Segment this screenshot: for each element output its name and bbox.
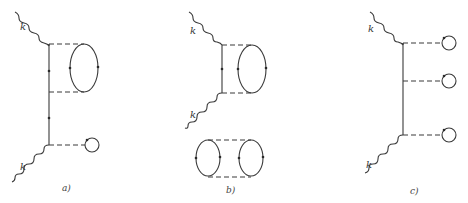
arrow-marker [262, 156, 265, 159]
fermion-loop [239, 140, 263, 176]
arrow-marker [238, 157, 241, 160]
fermion-loop [70, 44, 98, 92]
momentum-label-top: k [190, 25, 196, 36]
arrow-marker [443, 129, 446, 132]
arrow-marker [69, 67, 72, 70]
arrow-marker [265, 67, 268, 70]
arrow-marker [443, 37, 446, 40]
arrow-marker [48, 117, 51, 120]
momentum-label-bottom: k [190, 109, 196, 120]
fermion-loop [238, 45, 266, 93]
panel-c: k k c) [365, 12, 456, 196]
arrow-marker [221, 68, 224, 71]
panel-caption: a) [62, 183, 71, 193]
panel-caption: b) [226, 185, 236, 195]
arrow-marker [86, 139, 89, 142]
momentum-label-top: k [368, 23, 374, 34]
momentum-label-bottom: k [366, 159, 372, 170]
arrow-marker [443, 75, 446, 78]
arrow-marker [237, 68, 240, 71]
momentum-label-bottom: k [20, 161, 26, 172]
photon-line-top [370, 12, 403, 45]
arrow-marker [195, 157, 198, 160]
panel-b: k k b) [185, 12, 267, 195]
panel-a: k k a) [12, 12, 99, 193]
arrow-marker [219, 156, 222, 159]
arrow-marker [97, 66, 100, 69]
photon-line-bottom [12, 145, 49, 182]
panel-caption: c) [410, 186, 419, 196]
feynman-diagrams: k k a) k k b) [0, 0, 468, 203]
fermion-loop [196, 140, 220, 176]
momentum-label-top: k [20, 21, 26, 32]
arrow-marker [48, 70, 51, 73]
